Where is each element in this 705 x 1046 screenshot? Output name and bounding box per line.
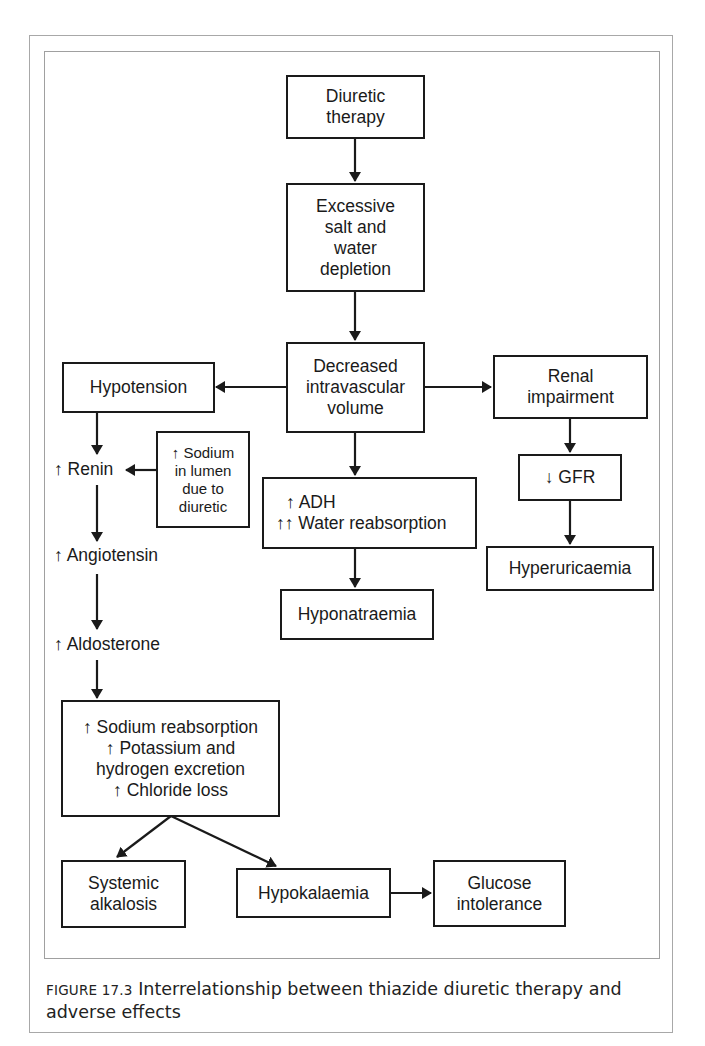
- node-text: Systemic: [88, 873, 159, 894]
- node-text: intravascular: [306, 377, 405, 398]
- node-text: impairment: [527, 387, 614, 408]
- node-text: alkalosis: [90, 894, 157, 915]
- node-renin: ↑ Renin: [54, 459, 113, 480]
- node-text: ↑ Sodium reabsorption: [83, 717, 258, 738]
- node-systemic-alkalosis: Systemic alkalosis: [61, 860, 186, 928]
- node-sodium-reabsorption: ↑ Sodium reabsorption ↑ Potassium and hy…: [61, 700, 280, 817]
- node-glucose-intolerance: Glucose intolerance: [433, 860, 566, 927]
- node-diuretic-therapy: Diuretic therapy: [286, 75, 425, 139]
- node-angiotensin: ↑ Angiotensin: [54, 545, 158, 566]
- node-text: Decreased: [313, 356, 398, 377]
- node-text: Hypokalaemia: [258, 883, 369, 904]
- figure-number: FIGURE 17.3: [46, 982, 133, 998]
- arrow-reabsorption-to-hypokalaemia: [171, 816, 276, 866]
- node-text: ↑↑ Water reabsorption: [276, 513, 447, 534]
- node-text: volume: [327, 398, 383, 419]
- node-hyperuricaemia: Hyperuricaemia: [486, 546, 654, 591]
- node-hypokalaemia: Hypokalaemia: [236, 868, 391, 918]
- node-text: ↑ ADH: [276, 492, 336, 513]
- node-sodium-in-lumen: ↑ Sodium in lumen due to diuretic: [156, 431, 250, 528]
- arrow-reabsorption-to-alkalosis: [117, 816, 171, 857]
- node-text: Hypotension: [90, 377, 187, 398]
- node-text: ↓ GFR: [545, 467, 596, 488]
- node-text: Glucose: [467, 873, 531, 894]
- node-text: ↑ Sodium: [172, 444, 235, 462]
- node-text: ↑ Chloride loss: [113, 780, 228, 801]
- node-text: therapy: [326, 107, 384, 128]
- node-hypotension: Hypotension: [62, 362, 215, 413]
- figure-caption: FIGURE 17.3 Interrelationship between th…: [46, 978, 646, 1023]
- node-text: hydrogen excretion: [96, 759, 245, 780]
- node-text: Excessive: [316, 196, 395, 217]
- node-text: ↑ Potassium and: [106, 738, 235, 759]
- node-text: diuretic: [179, 498, 227, 516]
- node-aldosterone: ↑ Aldosterone: [54, 634, 160, 655]
- node-text: depletion: [320, 259, 391, 280]
- node-text: salt and: [325, 217, 386, 238]
- node-text: water: [334, 238, 377, 259]
- node-text: Hyponatraemia: [298, 604, 417, 625]
- node-text: Hyperuricaemia: [509, 558, 632, 579]
- node-gfr: ↓ GFR: [518, 454, 622, 501]
- node-text: Diuretic: [326, 86, 385, 107]
- node-decreased-intravascular-volume: Decreased intravascular volume: [286, 342, 425, 433]
- node-text: Renal: [548, 366, 594, 387]
- figure-caption-text: Interrelationship between thiazide diure…: [46, 979, 622, 1022]
- node-salt-water-depletion: Excessive salt and water depletion: [286, 183, 425, 292]
- node-renal-impairment: Renal impairment: [493, 355, 648, 419]
- node-text: intolerance: [457, 894, 543, 915]
- node-hyponatraemia: Hyponatraemia: [280, 589, 434, 640]
- node-text: due to: [182, 480, 224, 498]
- node-text: in lumen: [175, 462, 232, 480]
- node-adh-water-reabsorption: ↑ ADH ↑↑ Water reabsorption: [262, 477, 477, 549]
